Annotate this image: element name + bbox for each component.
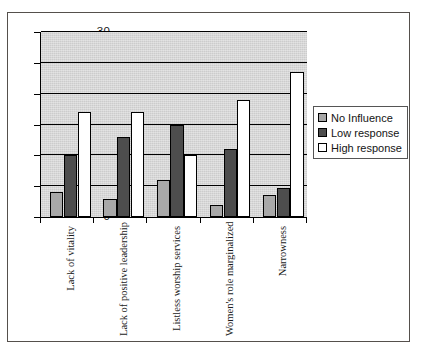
x-tick-mark xyxy=(146,217,147,223)
bar xyxy=(50,192,63,217)
chart-legend: No InfluenceLow responseHigh response xyxy=(313,106,408,159)
plot-area xyxy=(40,32,307,218)
bar xyxy=(103,199,116,218)
legend-item: No Influence xyxy=(318,110,402,125)
bar xyxy=(78,112,91,217)
x-axis-label: Narrowness xyxy=(277,226,288,336)
bar xyxy=(263,195,276,217)
x-axis-label: Lack of vitality xyxy=(65,226,76,336)
x-tick-mark xyxy=(93,217,94,223)
bar-group xyxy=(201,32,254,217)
x-tick-mark xyxy=(306,217,307,223)
legend-swatch-icon xyxy=(318,128,327,137)
legend-swatch-icon xyxy=(318,113,327,122)
bar xyxy=(290,72,303,217)
legend-item: Low response xyxy=(318,125,402,140)
bar-group xyxy=(94,32,147,217)
legend-item: High response xyxy=(318,140,402,155)
x-tick-mark xyxy=(200,217,201,223)
x-axis-label: Women's role marginalized xyxy=(224,226,235,336)
x-axis-label: Lack of positive leadership xyxy=(118,226,129,336)
bar-group xyxy=(147,32,200,217)
legend-label: Low response xyxy=(331,127,400,139)
legend-label: No Influence xyxy=(331,112,393,124)
bar xyxy=(210,205,223,217)
bar-group xyxy=(254,32,307,217)
x-tick-mark xyxy=(40,217,41,223)
bar xyxy=(224,149,237,217)
bar xyxy=(237,100,250,217)
bar xyxy=(64,155,77,217)
legend-swatch-icon xyxy=(318,143,327,152)
x-axis-label: Listless worship services xyxy=(171,226,182,336)
chart-container: 051015202530 Lack of vitalityLack of pos… xyxy=(0,0,421,356)
bar xyxy=(117,137,130,217)
legend-label: High response xyxy=(331,142,402,154)
bar xyxy=(170,125,183,218)
bar-group xyxy=(41,32,94,217)
x-tick-mark xyxy=(253,217,254,223)
bar xyxy=(184,155,197,217)
bar xyxy=(131,112,144,217)
bar xyxy=(157,180,170,217)
bar xyxy=(277,188,290,217)
